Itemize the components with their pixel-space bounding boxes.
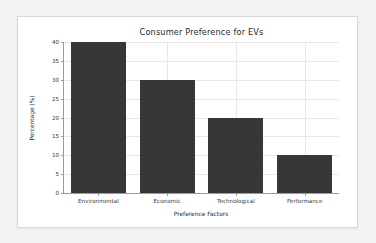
x-tick-label: Environmental	[78, 198, 119, 204]
x-tick-mark	[98, 193, 99, 196]
figure-card: Consumer Preference for EVs 051015202530…	[17, 16, 358, 228]
bar	[208, 118, 263, 194]
x-tick-mark	[167, 193, 168, 196]
y-tick-mark	[61, 99, 64, 100]
y-axis-label: Percentage (%)	[29, 95, 35, 140]
chart-title: Consumer Preference for EVs	[63, 27, 340, 37]
y-tick-mark	[61, 118, 64, 119]
x-tick-label: Economic	[154, 198, 181, 204]
bar	[140, 80, 195, 193]
y-tick-mark	[61, 61, 64, 62]
y-tick-label: 35	[52, 58, 59, 64]
y-tick-mark	[61, 80, 64, 81]
y-tick-mark	[61, 174, 64, 175]
y-tick-label: 5	[55, 171, 59, 177]
y-tick-label: 20	[52, 115, 59, 121]
plot-area: 0510152025303540EnvironmentalEconomicTec…	[63, 42, 339, 194]
y-tick-label: 25	[52, 96, 59, 102]
chart-canvas: Consumer Preference for EVs 051015202530…	[18, 17, 357, 227]
x-tick-label: Technological	[217, 198, 255, 204]
y-tick-label: 15	[52, 133, 59, 139]
x-axis-label: Preference Factors	[63, 211, 339, 217]
x-tick-mark	[305, 193, 306, 196]
y-tick-label: 0	[55, 190, 59, 196]
x-tick-mark	[236, 193, 237, 196]
bar	[277, 155, 332, 193]
y-tick-mark	[61, 155, 64, 156]
y-tick-mark	[61, 42, 64, 43]
bar	[71, 42, 126, 193]
y-tick-mark	[61, 193, 64, 194]
y-tick-label: 10	[52, 152, 59, 158]
y-tick-mark	[61, 136, 64, 137]
x-tick-label: Performance	[287, 198, 322, 204]
y-tick-label: 40	[52, 39, 59, 45]
y-tick-label: 30	[52, 77, 59, 83]
